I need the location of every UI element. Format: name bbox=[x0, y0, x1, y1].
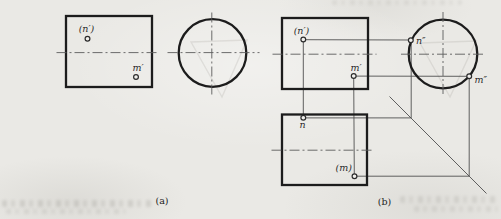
label-m-dprime: m″ bbox=[475, 74, 488, 85]
figure-part-b: (n′) m′ n″ m″ n (m) bbox=[272, 12, 488, 194]
projection-line-m-vertical bbox=[354, 76, 355, 176]
caption-part-b: (b) bbox=[378, 196, 392, 207]
point-marker-n-dprime bbox=[408, 38, 413, 43]
point-marker-m-prime-b bbox=[351, 74, 356, 79]
projection-figure-svg: (n′) m′ bbox=[0, 0, 501, 219]
label-m-prime-b: m′ bbox=[350, 62, 362, 73]
point-marker-n-prime-a bbox=[85, 36, 90, 41]
point-marker-m-prime-a bbox=[134, 75, 139, 80]
label-m-top: (m) bbox=[336, 162, 353, 173]
figure-part-a: (n′) m′ bbox=[57, 13, 260, 98]
scanned-figure-page: (n′) m′ bbox=[0, 0, 501, 219]
label-m-prime-a: m′ bbox=[132, 62, 144, 73]
label-n-prime-a: (n′) bbox=[79, 23, 95, 34]
point-marker-m-top bbox=[352, 174, 357, 179]
miter-45-line bbox=[390, 97, 487, 194]
point-marker-m-dprime bbox=[467, 74, 472, 79]
caption-part-a: (a) bbox=[155, 195, 168, 206]
bleedthrough-triangle-artifact bbox=[191, 40, 247, 97]
label-n-dprime: n″ bbox=[416, 35, 426, 46]
label-n-top: n bbox=[299, 119, 305, 130]
label-n-prime-b: (n′) bbox=[294, 25, 310, 36]
point-marker-n-prime-b bbox=[301, 37, 306, 42]
